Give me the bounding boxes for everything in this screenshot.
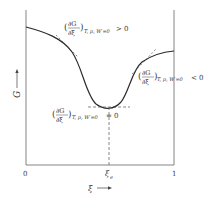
y-axis-label: G — [12, 69, 22, 98]
gibbs-curve — [26, 27, 174, 108]
svg-text:∂G: ∂G — [68, 20, 77, 28]
svg-text:= 0: = 0 — [106, 112, 119, 120]
svg-text:G: G — [12, 91, 22, 98]
svg-text:(: ( — [52, 109, 56, 119]
svg-text:): ) — [68, 109, 72, 119]
tick-label-1: 1 — [172, 170, 176, 178]
annotation-left-slope: ( ∂G ∂ξ ) T, p, W′=0 > 0 — [64, 20, 129, 37]
svg-text:∂G: ∂G — [56, 107, 65, 115]
svg-text:e: e — [110, 174, 113, 180]
svg-text:T, p, W′=0: T, p, W′=0 — [84, 28, 111, 35]
arrow-up-icon — [15, 69, 18, 73]
svg-text:∂ξ: ∂ξ — [68, 29, 75, 37]
tick-label-0: 0 — [23, 170, 27, 178]
arrow-right-icon — [108, 186, 112, 189]
annotation-minimum: ( ∂G ∂ξ ) T, p, W′=0 = 0 — [52, 107, 119, 124]
svg-text:∂ξ: ∂ξ — [142, 78, 149, 86]
svg-text:∂ξ: ∂ξ — [56, 116, 63, 124]
svg-text:∂G: ∂G — [142, 69, 151, 77]
svg-text:(: ( — [64, 22, 68, 32]
svg-text:): ) — [80, 22, 84, 32]
svg-text:T, p, W′=0: T, p, W′=0 — [157, 76, 184, 83]
svg-text:ξ: ξ — [88, 184, 93, 193]
svg-text:(: ( — [138, 71, 142, 81]
x-axis-label: ξ — [88, 184, 112, 193]
svg-text:> 0: > 0 — [116, 25, 129, 33]
svg-text:T, p, W′=0: T, p, W′=0 — [72, 114, 99, 121]
svg-text:< 0: < 0 — [191, 74, 204, 82]
annotation-right-slope: ( ∂G ∂ξ ) T, p, W′=0 < 0 — [138, 69, 204, 86]
gibbs-diagram: G ( ∂G ∂ξ ) T, p, W′=0 > 0 ( ∂G ∂ξ ) T, … — [0, 0, 214, 199]
tick-label-xi-e: ξ e — [105, 169, 113, 180]
